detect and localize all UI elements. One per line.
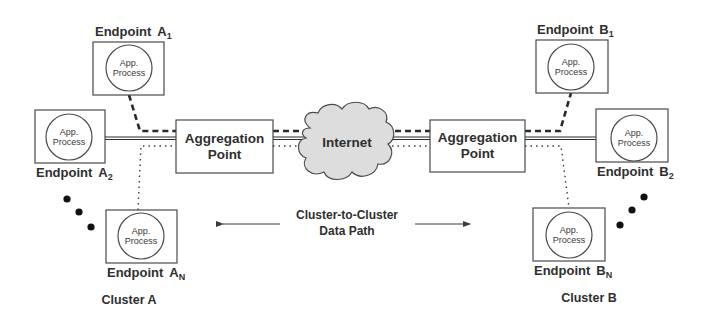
aggregation-a-label: Aggregation xyxy=(185,131,265,146)
cluster-b-label: Cluster B xyxy=(561,291,617,305)
endpoint-a2: App. Process EndpointA2 xyxy=(35,110,113,182)
process-label: App. xyxy=(132,226,151,236)
cluster-a-label: Cluster A xyxy=(101,293,156,307)
ellipsis-b xyxy=(616,193,647,228)
process-label: Process xyxy=(113,68,146,78)
link-b1-dashed xyxy=(525,93,571,131)
ellipsis-a xyxy=(63,195,94,230)
process-label: App. xyxy=(625,128,644,138)
process-label: App. xyxy=(560,225,579,235)
process-label: Process xyxy=(555,67,588,77)
link-bn-dotted xyxy=(525,146,569,208)
aggregation-b-label: Point xyxy=(461,146,495,161)
endpoint-b1-label: EndpointB1 xyxy=(537,22,614,39)
aggregation-a-label: Point xyxy=(208,147,242,162)
internet-cloud: Internet xyxy=(299,102,394,179)
endpoint-an: App. Process EndpointAN xyxy=(106,210,185,282)
endpoint-b2-label: EndpointB2 xyxy=(597,164,674,181)
process-label: Process xyxy=(53,137,86,147)
process-label: App. xyxy=(562,57,581,67)
aggregation-point-b: Aggregation Point xyxy=(430,120,525,172)
internet-label: Internet xyxy=(322,135,372,150)
link-a1-dashed xyxy=(129,95,176,131)
endpoint-b1: EndpointB1 App. Process xyxy=(536,22,614,93)
link-an-dotted xyxy=(138,146,176,210)
data-path-label: Data Path xyxy=(319,224,374,238)
data-path-annotation: Cluster-to-Cluster Data Path xyxy=(223,208,470,238)
aggregation-b-label: Aggregation xyxy=(438,130,518,145)
endpoint-a1-label: EndpointA1 xyxy=(95,24,172,41)
process-label: App. xyxy=(60,127,79,137)
process-label: Process xyxy=(125,236,158,246)
endpoint-an-label: EndpointAN xyxy=(107,265,185,282)
process-label: Process xyxy=(618,138,651,148)
aggregation-point-a: Aggregation Point xyxy=(176,120,273,173)
process-label: App. xyxy=(120,58,139,68)
endpoint-bn: App. Process EndpointBN xyxy=(533,208,612,280)
endpoint-bn-label: EndpointBN xyxy=(534,263,612,280)
endpoint-a1: EndpointA1 App. Process xyxy=(93,24,172,95)
process-label: Process xyxy=(553,235,586,245)
cluster-diagram: EndpointA1 App. Process App. Process End… xyxy=(0,0,709,324)
data-path-label: Cluster-to-Cluster xyxy=(296,208,398,222)
endpoint-b2: App. Process EndpointB2 xyxy=(596,109,674,181)
endpoint-a2-label: EndpointA2 xyxy=(36,165,113,182)
